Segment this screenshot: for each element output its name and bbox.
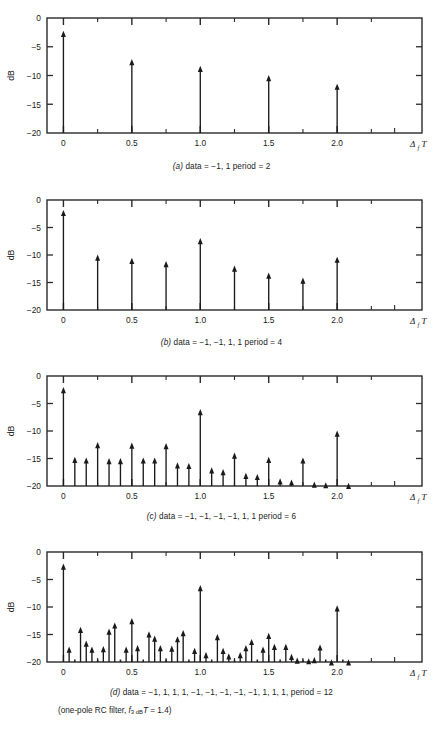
stem-arrowhead xyxy=(112,622,117,628)
x-tick-label: 2.0 xyxy=(331,315,343,325)
stem-arrowhead xyxy=(186,463,191,469)
x-axis-label-sub: f xyxy=(418,144,421,151)
x-tick-label: 1.0 xyxy=(194,491,206,501)
x-axis-label: ΔfT xyxy=(409,492,428,504)
x-tick-label: 1.0 xyxy=(194,315,206,325)
stem-arrowhead xyxy=(300,278,305,284)
y-tick-label: 0 xyxy=(36,13,41,23)
stem-arrowhead xyxy=(283,644,288,650)
stem-arrowhead xyxy=(243,645,248,651)
x-axis-label-delta: Δ xyxy=(409,668,415,678)
x-tick-label: 2.0 xyxy=(331,491,343,501)
stem-arrowhead xyxy=(95,254,100,260)
x-tick-label: 0 xyxy=(61,667,66,677)
panel-d-caption-letter: (d) xyxy=(110,688,120,697)
stem-arrowhead xyxy=(181,630,186,636)
x-axis-label-delta: Δ xyxy=(409,316,415,326)
stem-arrowhead xyxy=(101,646,106,652)
stem-arrowhead xyxy=(335,430,340,436)
stem-arrowhead xyxy=(107,458,112,464)
stem-arrowhead xyxy=(312,657,317,663)
stem-arrowhead xyxy=(266,75,271,81)
y-axis-label: dB xyxy=(6,70,16,81)
stem-arrowhead xyxy=(221,469,226,475)
stem-arrowhead xyxy=(272,644,277,650)
y-tick-label: 0 xyxy=(36,547,41,557)
x-tick-label: 0 xyxy=(61,138,66,148)
x-tick-label: 1.5 xyxy=(263,315,275,325)
stem-arrowhead xyxy=(289,479,294,485)
stem-arrowhead xyxy=(84,457,89,463)
stem-arrowhead xyxy=(95,442,100,448)
x-tick-label: 1.0 xyxy=(194,667,206,677)
panel-a-svg: 0−5−10−15−2000.51.01.52.0dBΔfT xyxy=(0,0,443,160)
y-tick-label: −10 xyxy=(27,250,42,260)
panel-d-caption: (d) data = −1, 1, 1, 1, −1, −1, −1, −1, … xyxy=(0,688,443,697)
x-axis-label-sub: f xyxy=(418,497,421,504)
stem-arrowhead xyxy=(249,639,254,645)
y-tick-label: −5 xyxy=(31,399,41,409)
x-axis-label-delta: Δ xyxy=(409,139,415,149)
stem-arrowhead xyxy=(198,66,203,72)
stem-arrowhead xyxy=(152,636,157,642)
panel-a-caption: (a) data = −1, 1 period = 2 xyxy=(0,162,443,171)
plot-frame xyxy=(47,552,422,662)
panel-c-caption: (c) data = −1, −1, −1, −1, 1, 1 period =… xyxy=(0,512,443,521)
stem-arrowhead xyxy=(198,409,203,415)
stem-arrowhead xyxy=(129,443,134,449)
stem-arrowhead xyxy=(175,462,180,468)
x-tick-label: 1.5 xyxy=(263,667,275,677)
stem-arrowhead xyxy=(215,634,220,640)
x-axis-label: ΔfT xyxy=(409,139,428,151)
stem-arrowhead xyxy=(61,210,66,216)
stem-arrowhead xyxy=(61,387,66,393)
stem-arrowhead xyxy=(78,627,83,633)
stem-arrowhead xyxy=(232,265,237,271)
stem-arrowhead xyxy=(164,443,169,449)
stem-arrowhead xyxy=(152,457,157,463)
stem-arrowhead xyxy=(243,473,248,479)
stem-arrowhead xyxy=(129,618,134,624)
footnote-pre: (one-pole RC filter, xyxy=(58,706,129,715)
y-tick-label: 0 xyxy=(36,371,41,381)
stem-arrowhead xyxy=(300,457,305,463)
stem-arrowhead xyxy=(107,628,112,634)
y-tick-label: −20 xyxy=(27,481,42,491)
y-tick-label: −5 xyxy=(31,42,41,52)
stem-series xyxy=(61,387,351,489)
y-tick-label: −20 xyxy=(27,305,42,315)
stem-arrowhead xyxy=(61,564,66,570)
stem-arrowhead xyxy=(67,647,72,653)
stem-arrowhead xyxy=(278,478,283,484)
panel-c-plot: 0−5−10−15−2000.51.01.52.0dBΔfT xyxy=(0,358,443,513)
x-tick-label: 0 xyxy=(61,315,66,325)
stem-arrowhead xyxy=(318,644,323,650)
stem-arrowhead xyxy=(226,653,231,659)
y-tick-label: −15 xyxy=(27,278,42,288)
x-axis-label-T: T xyxy=(422,492,428,502)
stem-arrowhead xyxy=(266,633,271,639)
x-axis-label: ΔfT xyxy=(409,668,428,680)
stem-arrowhead xyxy=(198,238,203,244)
footnote-symbol-sub: 3 dB xyxy=(131,709,143,715)
panel-d-plot: 0−5−10−15−2000.51.01.52.0dBΔfT xyxy=(0,534,443,689)
x-tick-label: 1.5 xyxy=(263,491,275,501)
x-tick-label: 0.5 xyxy=(126,667,138,677)
y-tick-label: −20 xyxy=(27,657,42,667)
x-tick-label: 0.5 xyxy=(126,315,138,325)
stem-arrowhead xyxy=(209,467,214,473)
x-axis-label-delta: Δ xyxy=(409,492,415,502)
panel-d-svg: 0−5−10−15−2000.51.01.52.0dBΔfT xyxy=(0,534,443,689)
y-tick-label: −5 xyxy=(31,223,41,233)
stem-series xyxy=(61,564,351,666)
y-tick-label: 0 xyxy=(36,195,41,205)
stem-arrowhead xyxy=(129,258,134,264)
panel-a-caption-body: data = −1, 1 period = 2 xyxy=(185,162,270,171)
panel-c-caption-letter: (c) xyxy=(147,512,157,521)
panel-a-plot: 0−5−10−15−2000.51.01.52.0dBΔfT xyxy=(0,0,443,160)
x-tick-label: 0.5 xyxy=(126,491,138,501)
figure-line-spectra: 0−5−10−15−2000.51.01.52.0dBΔfT (a) data … xyxy=(0,0,443,730)
y-tick-label: −10 xyxy=(27,426,42,436)
stem-arrowhead xyxy=(255,474,260,480)
panel-b-caption-body: data = −1, −1, 1, 1 period = 4 xyxy=(174,338,283,347)
